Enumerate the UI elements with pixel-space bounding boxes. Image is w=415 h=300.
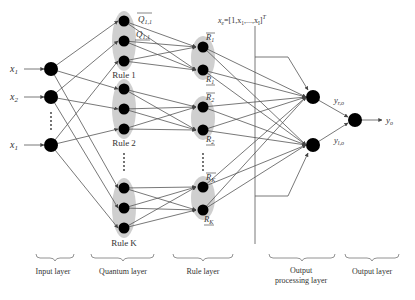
yo-label: yo: [385, 115, 393, 126]
output-processing-layer-label-line2: processing layer: [275, 276, 328, 285]
yl-label: yl,o: [333, 135, 344, 146]
qfnn-architecture-diagram: x1 x2 x1 Q1,1 Q1,1 Rule 1 Rule 2 Rule K …: [0, 0, 415, 300]
input-to-quantum-edges: [51, 21, 118, 228]
svg-text:x1: x1: [9, 63, 18, 76]
layer-labels: Input layer Quantum layer Rule layer Out…: [36, 266, 393, 285]
input-node-xI: [44, 138, 58, 152]
rule-2-label: Rule 2: [112, 138, 136, 148]
yr-label: yr,o: [333, 95, 344, 106]
output-node: [348, 113, 362, 127]
input-node-x2: [44, 90, 58, 104]
rule-k-label: Rule K: [111, 238, 137, 248]
layer-braces-right: [269, 254, 399, 261]
rule-nodes: [198, 42, 209, 216]
svg-text:R1: R1: [205, 32, 214, 43]
input-arrows: [24, 69, 44, 145]
svg-text:R2: R2: [205, 134, 214, 145]
rule-layer-label: Rule layer: [186, 267, 219, 276]
svg-text:RK: RK: [205, 172, 216, 183]
yl-node: [306, 138, 320, 152]
input-labels: x1 x2 x1: [9, 63, 18, 152]
quantum-layer-label: Quantum layer: [99, 267, 147, 276]
svg-text:x1: x1: [9, 139, 18, 152]
quantum-top-labels: Q1,1 Q1,1: [135, 13, 152, 40]
input-layer-label: Input layer: [36, 267, 71, 276]
output-processing-layer-label-line1: Output: [290, 266, 313, 275]
output-layer-label: Output layer: [352, 267, 393, 276]
layer-braces: [36, 254, 233, 261]
svg-text:RK: RK: [203, 214, 214, 225]
output-edges: [313, 97, 382, 145]
output-labels: yr,o yl,o yo: [333, 95, 393, 146]
svg-text:R2: R2: [205, 92, 214, 103]
q11-label: Q1,1: [136, 29, 150, 40]
extended-input-label: xe=[1,x1,...,xI]T: [217, 14, 266, 26]
q11-bar-label: Q1,1: [138, 14, 152, 25]
output-processing-nodes: [306, 90, 320, 152]
svg-text:x2: x2: [9, 91, 18, 104]
rule-1-label: Rule 1: [112, 70, 136, 80]
yr-node: [306, 90, 320, 104]
input-node-x1: [44, 62, 58, 76]
svg-text:R1: R1: [205, 74, 214, 85]
rule-to-output-edges: [203, 47, 306, 210]
